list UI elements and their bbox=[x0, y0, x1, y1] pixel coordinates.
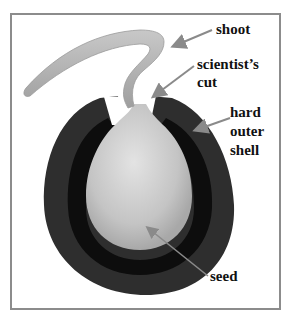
label-shell-line1: hard bbox=[230, 103, 261, 121]
seed-illustration bbox=[0, 0, 291, 321]
label-shell-line3: shell bbox=[230, 141, 259, 159]
label-scientists-cut-line1: scientist’s bbox=[197, 55, 259, 73]
cut-arrow bbox=[154, 66, 194, 96]
label-seed: seed bbox=[210, 267, 238, 285]
label-shell-line2: outer bbox=[230, 122, 264, 140]
label-scientists-cut-line2: cut bbox=[197, 73, 217, 91]
shoot-arrow bbox=[174, 30, 212, 46]
label-shoot: shoot bbox=[216, 20, 250, 38]
